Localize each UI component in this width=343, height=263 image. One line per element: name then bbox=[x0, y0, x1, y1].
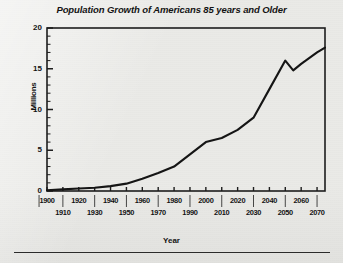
chart-figure: Population Growth of Americans 85 years … bbox=[0, 0, 343, 263]
x-tick-label: 2060 bbox=[288, 196, 314, 205]
x-tick-label: 2000 bbox=[193, 196, 219, 205]
x-tick-label: 2050 bbox=[272, 208, 298, 217]
x-tick-label: 1930 bbox=[82, 208, 108, 217]
x-tick-label: 2010 bbox=[209, 208, 235, 217]
x-tick-label: 1910 bbox=[50, 208, 76, 217]
x-tick-label: 2040 bbox=[256, 196, 282, 205]
footer-rule bbox=[14, 252, 330, 253]
x-tick-label: 1970 bbox=[145, 208, 171, 217]
x-tick-label: 1900 bbox=[34, 196, 60, 205]
x-tick-label: 1980 bbox=[161, 196, 187, 205]
x-tick-label: 2020 bbox=[225, 196, 251, 205]
x-tick-label: 1990 bbox=[177, 208, 203, 217]
x-tick-label: 1940 bbox=[98, 196, 124, 205]
y-tick-label: 0 bbox=[24, 186, 42, 195]
x-tick-label: 1950 bbox=[113, 208, 139, 217]
y-tick-label: 15 bbox=[24, 64, 42, 73]
y-tick-label: 5 bbox=[24, 145, 42, 154]
x-tick-label: 1960 bbox=[129, 196, 155, 205]
x-tick-label: 2070 bbox=[304, 208, 330, 217]
x-tick-label: 1920 bbox=[66, 196, 92, 205]
y-tick-label: 10 bbox=[24, 105, 42, 114]
plot-area bbox=[0, 0, 343, 263]
x-tick-label: 2030 bbox=[241, 208, 267, 217]
y-tick-label: 20 bbox=[24, 23, 42, 32]
